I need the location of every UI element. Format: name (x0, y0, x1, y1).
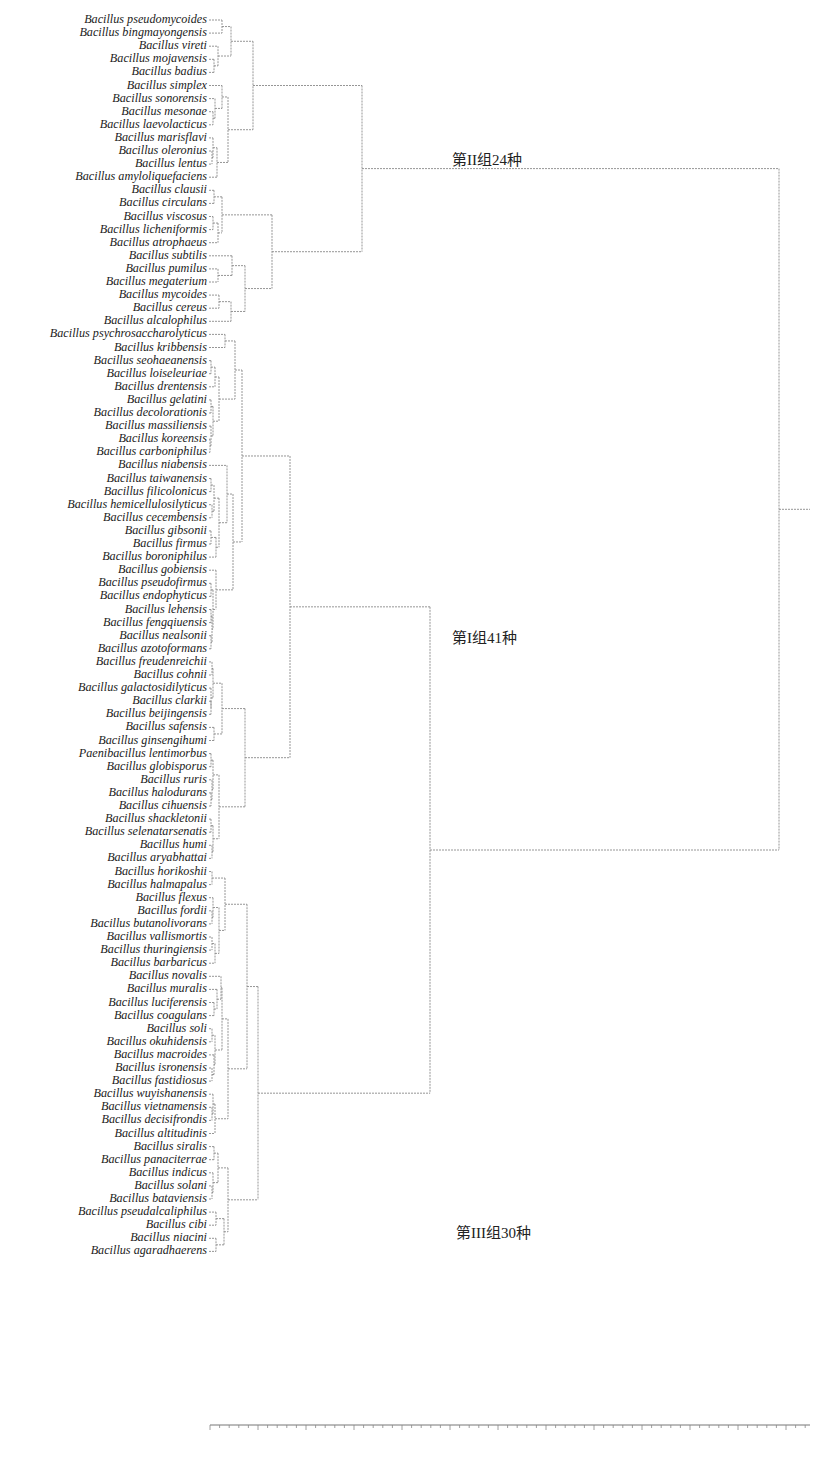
group-label-III: 第III组30种 (456, 1221, 531, 1242)
group-label-II: 第II组24种 (452, 148, 522, 169)
dendrogram-tree (0, 0, 815, 1460)
group-label-I: 第I组41种 (452, 626, 517, 647)
